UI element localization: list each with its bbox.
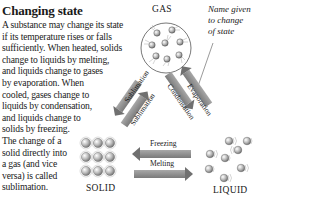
annotation-line: Name given: [208, 4, 251, 15]
liquid-label: LIQUID: [213, 185, 248, 195]
solid-particles: [81, 138, 114, 175]
gas-label: GAS: [152, 4, 172, 14]
annotation-line: to change: [208, 15, 251, 26]
solid-label: SOLID: [86, 183, 115, 193]
freezing-label: Freezing: [150, 139, 177, 148]
melting-label: Melting: [150, 159, 174, 168]
liquid-particles: [205, 137, 252, 182]
annotation-line: of state: [208, 26, 251, 37]
annotation-note: Name given to change of state: [208, 4, 251, 37]
melting-arrow: [134, 167, 193, 181]
gas-particles: [141, 23, 191, 73]
